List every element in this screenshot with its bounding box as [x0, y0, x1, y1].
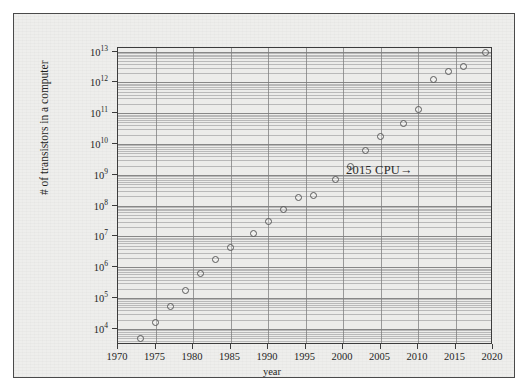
- gridline-minor-horizontal: [118, 89, 491, 90]
- gridline-vertical: [456, 48, 457, 343]
- y-axis-tick-label: 107: [14, 228, 108, 242]
- gridline-minor-horizontal: [118, 310, 491, 311]
- gridline-minor-horizontal: [118, 104, 491, 105]
- y-axis-tick-label: 109: [14, 167, 108, 181]
- gridline-minor-horizontal: [118, 191, 491, 192]
- y-axis-tick: [112, 205, 117, 206]
- data-point: [295, 194, 302, 201]
- gridline-vertical: [193, 48, 194, 343]
- gridline-vertical: [381, 48, 382, 343]
- y-axis-tick-label: 104: [14, 321, 108, 335]
- gridline-major-horizontal: [118, 144, 491, 145]
- gridline-minor-horizontal: [118, 272, 491, 273]
- gridline-minor-horizontal: [118, 85, 491, 86]
- gridline-major-horizontal: [118, 52, 491, 53]
- x-axis-tick-label: 1970: [107, 351, 128, 362]
- gridline-minor-horizontal: [118, 95, 491, 96]
- y-axis-tick-label: 106: [14, 259, 108, 273]
- data-point: [137, 335, 144, 342]
- plot-area: 2015 CPU→: [117, 47, 492, 344]
- gridline-minor-horizontal: [118, 84, 491, 85]
- gridline-minor-horizontal: [118, 332, 491, 333]
- x-axis-tick: [117, 344, 118, 349]
- x-axis-tick-label: 1995: [294, 351, 315, 362]
- gridline-major-horizontal: [118, 267, 491, 268]
- gridline-minor-horizontal: [118, 53, 491, 54]
- data-point: [265, 218, 272, 225]
- data-point: [430, 76, 437, 83]
- gridline-minor-horizontal: [118, 212, 491, 213]
- gridline-minor-horizontal: [118, 307, 491, 308]
- gridline-minor-horizontal: [118, 274, 491, 275]
- gridline-minor-horizontal: [118, 180, 491, 181]
- gridline-minor-horizontal: [118, 207, 491, 208]
- gridline-minor-horizontal: [118, 336, 491, 337]
- gridline-minor-horizontal: [118, 222, 491, 223]
- gridline-minor-horizontal: [118, 277, 491, 278]
- gridline-minor-horizontal: [118, 209, 491, 210]
- gridline-minor-horizontal: [118, 129, 491, 130]
- gridline-minor-horizontal: [118, 151, 491, 152]
- data-point: [460, 63, 467, 70]
- x-axis-tick-label: 1985: [219, 351, 240, 362]
- x-axis-tick: [192, 344, 193, 349]
- data-point: [167, 303, 174, 310]
- y-axis-tick-label: 108: [14, 198, 108, 212]
- gridline-minor-horizontal: [118, 239, 491, 240]
- gridline-minor-horizontal: [118, 218, 491, 219]
- gridline-minor-horizontal: [118, 341, 491, 342]
- gridline-minor-horizontal: [118, 320, 491, 321]
- y-axis-tick: [112, 143, 117, 144]
- y-axis-tick: [112, 328, 117, 329]
- figure-page: # of transistors in a computer 104105106…: [0, 0, 529, 392]
- gridline-minor-horizontal: [118, 120, 491, 121]
- x-axis-tick: [342, 344, 343, 349]
- data-point: [445, 68, 452, 75]
- gridline-minor-horizontal: [118, 210, 491, 211]
- gridline-major-horizontal: [118, 236, 491, 237]
- gridline-minor-horizontal: [118, 115, 491, 116]
- gridline-minor-horizontal: [118, 92, 491, 93]
- gridline-minor-horizontal: [118, 227, 491, 228]
- gridline-minor-horizontal: [118, 314, 491, 315]
- gridline-vertical: [268, 48, 269, 343]
- gridline-minor-horizontal: [118, 118, 491, 119]
- gridline-minor-horizontal: [118, 61, 491, 62]
- gridline-minor-horizontal: [118, 135, 491, 136]
- x-axis-tick: [380, 344, 381, 349]
- gridline-minor-horizontal: [118, 241, 491, 242]
- gridline-minor-horizontal: [118, 258, 491, 259]
- y-axis-tick: [112, 51, 117, 52]
- gridline-minor-horizontal: [118, 289, 491, 290]
- x-axis-label: year: [263, 366, 281, 377]
- gridline-minor-horizontal: [118, 58, 491, 59]
- data-point: [182, 287, 189, 294]
- gridline-minor-horizontal: [118, 55, 491, 56]
- data-point: [415, 106, 422, 113]
- gridline-vertical: [418, 48, 419, 343]
- gridline-minor-horizontal: [118, 125, 491, 126]
- y-axis-tick: [112, 297, 117, 298]
- gridline-minor-horizontal: [118, 160, 491, 161]
- gridline-minor-horizontal: [118, 280, 491, 281]
- gridline-minor-horizontal: [118, 215, 491, 216]
- y-axis-tick: [112, 174, 117, 175]
- figure-frame: # of transistors in a computer 104105106…: [13, 13, 515, 378]
- gridline-vertical: [231, 48, 232, 343]
- gridline-minor-horizontal: [118, 116, 491, 117]
- x-axis-tick: [492, 344, 493, 349]
- x-axis-tick-label: 2010: [407, 351, 428, 362]
- x-axis-tick-label: 1990: [257, 351, 278, 362]
- y-axis-tick-label: 1010: [14, 136, 108, 150]
- gridline-major-horizontal: [118, 329, 491, 330]
- data-point: [280, 206, 287, 213]
- gridline-minor-horizontal: [118, 303, 491, 304]
- y-axis-tick-label: 1011: [14, 105, 108, 119]
- gridline-minor-horizontal: [118, 249, 491, 250]
- gridline-minor-horizontal: [118, 178, 491, 179]
- gridline-vertical: [156, 48, 157, 343]
- gridline-minor-horizontal: [118, 182, 491, 183]
- gridline-major-horizontal: [118, 298, 491, 299]
- gridline-minor-horizontal: [118, 56, 491, 57]
- x-axis-tick-label: 2000: [332, 351, 353, 362]
